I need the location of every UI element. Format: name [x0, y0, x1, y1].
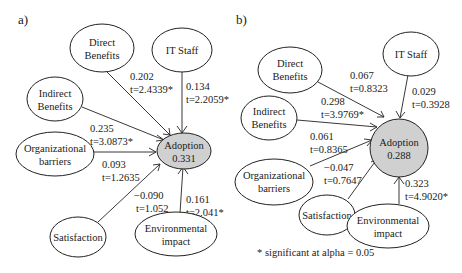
edge-it-staff [400, 75, 408, 118]
tstat-direct-benefits: t=0.8323 [350, 83, 388, 94]
tstat-indirect-benefits: t=3.9769* [321, 109, 364, 120]
tstat-env-impact: t=4.9020* [405, 191, 448, 202]
node-label: Direct [277, 58, 303, 69]
panel-b: b) 0.067 t=0.8323 0.029 t=0.3928 [235, 12, 450, 258]
tstat-satisfaction: t=0.7647 [324, 175, 362, 186]
coef-indirect-benefits: 0.235 [90, 123, 114, 134]
node-org-barriers: Organizational barriers [235, 159, 313, 205]
node-value: 0.288 [387, 150, 411, 161]
coef-it-staff: 0.134 [186, 81, 210, 92]
node-direct-benefits: Direct Benefits [70, 24, 134, 72]
panel-a-label: a) [18, 12, 28, 27]
tstat-org-barriers: t=0.8365 [310, 144, 348, 155]
coef-it-staff: 0.029 [412, 86, 436, 97]
node-direct-benefits: Direct Benefits [258, 47, 322, 93]
node-label: Indirect [253, 106, 286, 117]
node-label: IT Staff [395, 49, 428, 60]
node-label: IT Staff [166, 45, 199, 56]
node-label: Benefits [85, 50, 120, 61]
edge-indirect-benefits [297, 120, 377, 127]
coef-env-impact: 0.323 [405, 178, 429, 189]
node-indirect-benefits: Indirect Benefits [27, 77, 83, 121]
coef-direct-benefits: 0.067 [350, 70, 374, 81]
node-label: Environmental [145, 223, 207, 234]
node-it-staff: IT Staff [152, 28, 212, 72]
panel-a: a) 0.202 t=2.4339* 0.134 [16, 12, 229, 257]
node-label: Benefits [252, 119, 287, 130]
node-env-impact: Environmental impact [135, 212, 217, 256]
node-label: impact [162, 236, 191, 247]
node-label: barriers [258, 183, 290, 194]
node-adoption-target: Adoption 0.288 [370, 119, 428, 177]
node-label: Direct [89, 37, 115, 48]
node-adoption-target: Adoption 0.331 [157, 133, 211, 169]
node-org-barriers: Organizational barriers [16, 132, 94, 176]
tstat-it-staff: t=2.2059* [186, 94, 229, 105]
panel-b-label: b) [236, 12, 247, 27]
node-it-staff: IT Staff [383, 32, 439, 76]
node-label: Adoption [164, 140, 204, 151]
node-indirect-benefits: Indirect Benefits [241, 96, 297, 140]
node-label: Benefits [38, 101, 73, 112]
node-label: Organizational [243, 170, 305, 181]
tstat-org-barriers: t=1.2635 [102, 172, 140, 183]
tstat-indirect-benefits: t=3.0873* [90, 136, 133, 147]
coef-org-barriers: 0.093 [102, 159, 126, 170]
edge-env-impact [180, 167, 183, 213]
coef-env-impact: 0.161 [186, 194, 210, 205]
node-value: 0.331 [172, 153, 196, 164]
node-satisfaction: Satisfaction [50, 217, 106, 257]
node-label: Benefits [273, 71, 308, 82]
node-label: barriers [39, 156, 71, 167]
node-satisfaction: Satisfaction [299, 195, 355, 235]
node-label: Satisfaction [302, 210, 352, 221]
coef-org-barriers: 0.061 [310, 131, 334, 142]
coef-indirect-benefits: 0.298 [321, 96, 345, 107]
node-label: impact [374, 228, 403, 239]
node-label: Environmental [357, 215, 419, 226]
significance-footnote: * significant at alpha = 0.05 [257, 247, 374, 258]
tstat-satisfaction: t=1.052 [136, 203, 168, 214]
node-label: Satisfaction [53, 232, 103, 243]
node-label: Adoption [379, 137, 419, 148]
coef-satisfaction: −0.090 [134, 190, 164, 201]
tstat-it-staff: t=0.3928 [412, 99, 450, 110]
node-label: Indirect [39, 88, 72, 99]
coef-satisfaction: −0.047 [324, 162, 354, 173]
coef-direct-benefits: 0.202 [130, 71, 154, 82]
node-label: Organizational [24, 143, 86, 154]
tstat-direct-benefits: t=2.4339* [130, 84, 173, 95]
path-model-figure: a) 0.202 t=2.4339* 0.134 [0, 0, 462, 273]
node-env-impact: Environmental impact [347, 204, 429, 248]
